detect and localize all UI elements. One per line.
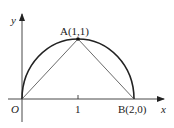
x-tick-label-1: 1	[75, 103, 81, 115]
point-A	[76, 37, 80, 41]
point-B-label: B(2,0)	[118, 103, 147, 116]
segment-AB	[78, 39, 134, 99]
segment-OA	[22, 39, 78, 99]
point-A-label: A(1,1)	[60, 25, 89, 38]
coordinate-diagram: y x O 1 A(1,1) B(2,0)	[0, 0, 174, 128]
y-axis-label: y	[10, 14, 16, 26]
origin-label: O	[11, 103, 19, 115]
x-axis-label: x	[160, 103, 166, 115]
semicircle-arc	[22, 39, 134, 99]
